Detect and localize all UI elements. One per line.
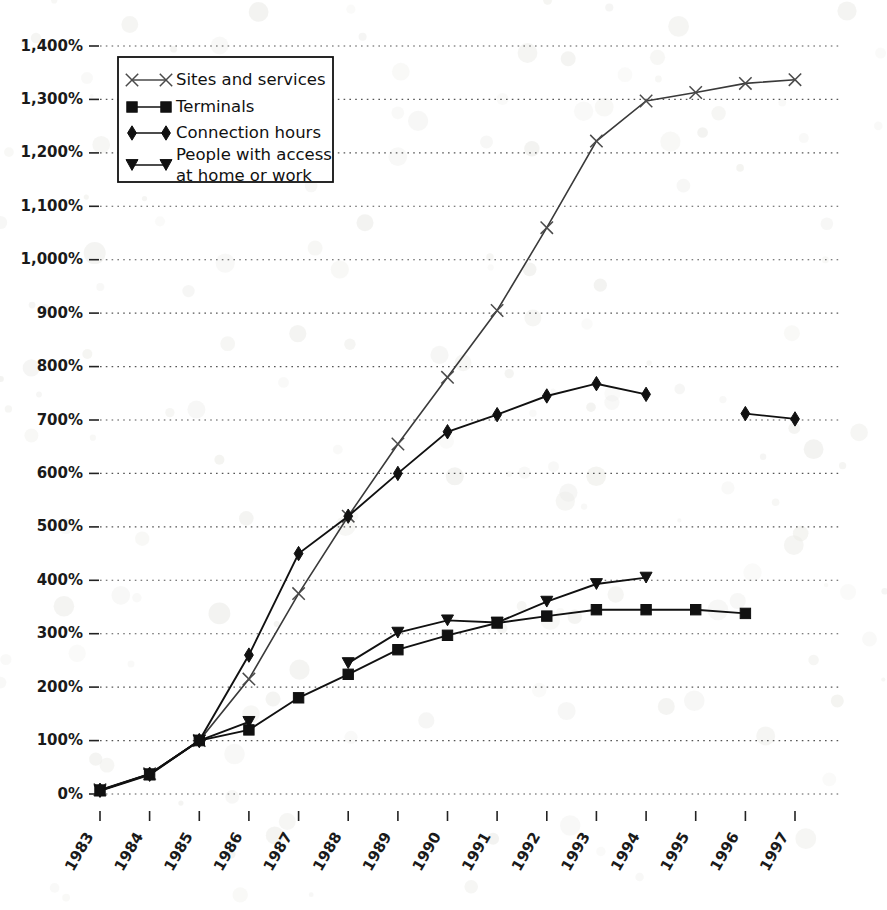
y-axis-tick-label: 1,100% [21, 197, 83, 215]
legend-label: Sites and services [176, 70, 326, 89]
chart-container: 0%100%200%300%400%500%600%700%800%900%1,… [0, 0, 887, 910]
y-axis-tick-label: 1,300% [21, 90, 83, 108]
legend-label: Connection hours [176, 123, 321, 142]
y-axis-tick-label: 800% [37, 357, 83, 375]
legend-label: People with access [176, 145, 332, 164]
y-axis-tick-label: 400% [37, 571, 83, 589]
y-axis-tick-label: 100% [37, 731, 83, 749]
y-axis-tick-label: 500% [37, 517, 83, 535]
legend-label: Terminals [175, 97, 254, 116]
chart-legend: Sites and servicesTerminalsConnection ho… [118, 57, 333, 185]
y-axis-tick-label: 1,400% [21, 37, 83, 55]
y-axis-tick-label: 300% [37, 624, 83, 642]
y-axis-tick-label: 1,200% [21, 143, 83, 161]
y-axis-tick-label: 0% [58, 785, 83, 803]
line-chart: 0%100%200%300%400%500%600%700%800%900%1,… [0, 0, 887, 910]
y-axis-tick-label: 600% [37, 464, 83, 482]
y-axis-tick-label: 200% [37, 678, 83, 696]
y-axis-tick-label: 900% [37, 304, 83, 322]
y-axis-tick-label: 700% [37, 411, 83, 429]
y-axis-tick-label: 1,000% [21, 250, 83, 268]
legend-label-line2: at home or work [176, 166, 312, 185]
